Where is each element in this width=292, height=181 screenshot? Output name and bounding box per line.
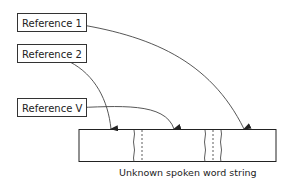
word-boundary-line xyxy=(134,130,135,162)
word-boundary-line xyxy=(205,130,206,162)
word-boundary-line xyxy=(221,130,222,162)
reference-1-box: Reference 1 xyxy=(17,13,87,32)
reference-2-box: Reference 2 xyxy=(17,44,87,63)
arrow-reference-1 xyxy=(70,23,244,129)
unknown-string-box xyxy=(79,130,276,162)
arrow-reference-2 xyxy=(70,62,111,129)
reference-v-box: Reference V xyxy=(17,98,87,117)
unknown-string-caption: Unknown spoken word string xyxy=(119,167,257,178)
